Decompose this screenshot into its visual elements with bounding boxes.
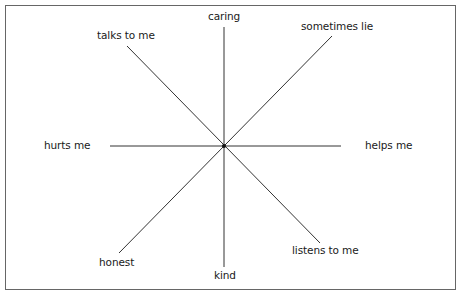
label-kind: kind: [214, 269, 236, 281]
label-helps-me: helps me: [365, 139, 412, 151]
label-talks-to-me: talks to me: [97, 29, 155, 41]
label-sometimes-lie: sometimes lie: [301, 20, 373, 32]
label-hurts-me: hurts me: [44, 139, 90, 151]
label-listens-to-me: listens to me: [292, 244, 359, 256]
label-caring: caring: [208, 10, 240, 22]
axis-diagonal-lie-honest: [119, 36, 332, 253]
center-point: [222, 144, 226, 148]
label-honest: honest: [99, 256, 134, 268]
